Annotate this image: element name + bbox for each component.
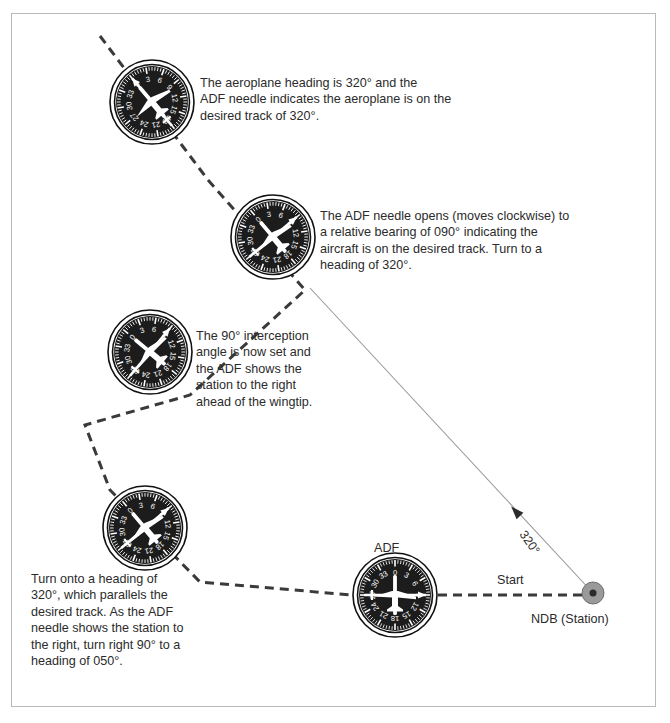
ndb-bearing-line [310, 288, 593, 593]
callout-text-third: The 90° interception angle is now set an… [196, 328, 332, 410]
callout-text-top: The aeroplane heading is 320° and the AD… [200, 75, 476, 124]
callout-text-second: The ADF needle opens (moves clockwise) t… [320, 208, 586, 274]
svg-text:15: 15 [167, 351, 177, 361]
start-label: Start [497, 573, 524, 587]
svg-text:21: 21 [151, 119, 161, 129]
svg-text:12: 12 [162, 519, 172, 529]
diagram-page: 0369121518212427303303691215182124273033… [0, 0, 670, 723]
svg-text:12: 12 [290, 228, 300, 238]
adf-instrument-start: 03691215182124273033 [353, 553, 437, 637]
callout-text-fourth: Turn onto a heading of 320°, which paral… [31, 571, 203, 669]
adf-instrument-second: 03691215182124273033 [222, 186, 323, 287]
svg-text:33: 33 [122, 343, 132, 353]
svg-text:21: 21 [272, 254, 282, 264]
svg-text:30: 30 [124, 101, 134, 111]
adf-instrument-top: 03691215182124273033 [101, 51, 202, 152]
svg-text:30: 30 [117, 527, 127, 537]
ndb-station-label: NDB (Station) [531, 612, 609, 626]
adf-instrument-third: 03691215182124273033 [99, 301, 200, 402]
svg-text:24: 24 [141, 369, 151, 379]
svg-text:30: 30 [245, 236, 255, 246]
adf-instrument-fourth: 03691215182124273033 [94, 477, 195, 578]
adf-label: ADF [374, 541, 399, 555]
svg-text:21: 21 [144, 545, 154, 555]
svg-text:12: 12 [169, 93, 179, 103]
ndb-station-marker [582, 582, 604, 604]
